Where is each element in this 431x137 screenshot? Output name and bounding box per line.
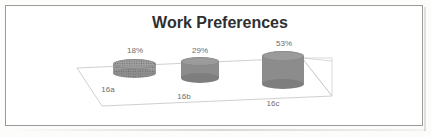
scan-edge-shadow-bottom [8,129,426,131]
category-label-16c: 16c [253,99,293,108]
category-label-16a: 16a [88,85,128,94]
bar-cylinder-bottom-ellipse [113,68,156,78]
bar-cylinder-bottom-ellipse [262,79,304,89]
bar-cylinder-top-ellipse [262,51,304,61]
bar-cylinder-16b[interactable] [181,57,219,83]
screenshot-root: Work Preferences 18% 29% 53% 16a 16b 16c [0,0,431,137]
data-label-16c: 53% [263,39,305,48]
bar-cylinder-16c[interactable] [262,51,304,89]
bar-cylinder-16a[interactable] [113,59,156,78]
data-label-16b: 29% [181,46,219,55]
bar-cylinder-bottom-ellipse [181,73,219,83]
bar-cylinder-top-ellipse [113,59,156,69]
category-label-16b: 16b [164,92,204,101]
floor-plane-back-edge [302,58,332,61]
scan-edge-shadow-right [424,7,426,131]
data-label-16a: 18% [114,46,156,55]
bar-cylinder-top-ellipse [181,57,219,66]
